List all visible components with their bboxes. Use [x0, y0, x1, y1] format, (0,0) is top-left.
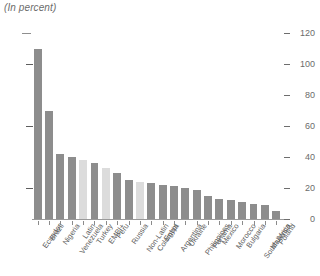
bar-poland[interactable] — [272, 211, 280, 219]
tick-dash-icon — [284, 64, 290, 65]
x-label-slot: Venezuela — [66, 221, 77, 276]
x-axis-baseline — [32, 219, 284, 220]
x-axis-labels: EcuadorBrazilNigeriaVenezuelaLatinTurkey… — [32, 221, 282, 276]
plot-area — [32, 33, 282, 219]
bar-slot — [32, 33, 43, 219]
x-axis-tick — [276, 221, 277, 225]
bar-south-africa[interactable] — [250, 204, 258, 220]
x-axis-tick — [265, 221, 266, 225]
bar-slot — [134, 33, 145, 219]
bar-brazil[interactable] — [45, 111, 53, 220]
bar-slot — [225, 33, 236, 219]
x-label-slot: Poland — [271, 221, 282, 276]
bar-colombia[interactable] — [147, 183, 155, 219]
bar-russia[interactable] — [125, 180, 133, 219]
right-axis-tick-100: 100 — [284, 59, 315, 69]
bar-ecuador[interactable] — [34, 49, 42, 220]
bar-slot — [43, 33, 54, 219]
x-label-slot: EMBI+ — [100, 221, 111, 276]
right-axis-tick-label: 0 — [293, 214, 315, 224]
x-label-slot: Latin — [77, 221, 88, 276]
right-axis-tick-label: 40 — [293, 152, 315, 162]
x-axis-tick — [49, 221, 50, 225]
x-label-slot: Ecuador — [32, 221, 43, 276]
x-axis-tick — [72, 221, 73, 225]
bar-slot — [89, 33, 100, 219]
bar-slot — [271, 33, 282, 219]
x-axis-tick — [254, 221, 255, 225]
x-axis-tick — [208, 221, 209, 225]
x-label-slot: Peru — [112, 221, 123, 276]
right-axis-tick-80: 80 — [284, 90, 315, 100]
x-axis-tick — [38, 221, 39, 225]
x-axis-tick — [242, 221, 243, 225]
x-label-slot: South Africa — [248, 221, 259, 276]
tick-dash-icon — [284, 188, 290, 189]
bar-slot — [66, 33, 77, 219]
bar-philippines[interactable] — [193, 190, 201, 219]
left-axis-stub-tick — [22, 33, 31, 34]
x-axis-tick — [129, 221, 130, 225]
x-axis-tick — [197, 221, 198, 225]
bar-slot — [100, 33, 111, 219]
x-label-slot: Argentina — [168, 221, 179, 276]
bar-egypt[interactable] — [159, 185, 167, 219]
right-axis-tick-label: 60 — [293, 121, 315, 131]
right-axis-tick-120: 120 — [284, 28, 315, 38]
bar-bulgaria[interactable] — [238, 202, 246, 219]
x-axis-tick — [231, 221, 232, 225]
bar-slot — [146, 33, 157, 219]
x-label-slot: Ukraine — [180, 221, 191, 276]
bar-malaysia[interactable] — [261, 205, 269, 219]
chart-subtitle: (In percent) — [4, 2, 56, 13]
bar-slot — [214, 33, 225, 219]
tick-dash-icon — [284, 219, 290, 220]
bar-peru[interactable] — [113, 173, 121, 220]
x-label-slot: Morocco — [225, 221, 236, 276]
tick-dash-icon — [284, 33, 290, 34]
x-label-slot: Egypt — [157, 221, 168, 276]
bar-mexico[interactable] — [215, 199, 223, 219]
x-label-slot: Brazil — [43, 221, 54, 276]
tick-dash-icon — [284, 157, 290, 158]
x-label-slot: Turkey — [89, 221, 100, 276]
bar-turkey[interactable] — [91, 163, 99, 219]
x-label-slot: Russia — [123, 221, 134, 276]
bar-slot — [191, 33, 202, 219]
bar-argentina[interactable] — [170, 186, 178, 219]
bar-morocco[interactable] — [227, 200, 235, 219]
bar-slot — [112, 33, 123, 219]
right-axis-tick-label: 100 — [293, 59, 315, 69]
bar-series — [32, 33, 282, 219]
bar-panama[interactable] — [204, 196, 212, 219]
bar-slot — [168, 33, 179, 219]
x-axis-tick — [185, 221, 186, 225]
x-label-slot: Mexico — [214, 221, 225, 276]
bar-embi-[interactable] — [102, 168, 110, 219]
bar-slot — [77, 33, 88, 219]
right-axis-tick-60: 60 — [284, 121, 315, 131]
x-label-slot: Panama — [202, 221, 213, 276]
bar-slot — [259, 33, 270, 219]
x-axis-tick — [151, 221, 152, 225]
x-axis-tick — [60, 221, 61, 225]
bar-latin[interactable] — [79, 160, 87, 219]
right-axis-tick-label: 120 — [293, 28, 315, 38]
x-label-slot: Philippines — [191, 221, 202, 276]
x-label-slot: Non-Latin — [134, 221, 145, 276]
bar-venezuela[interactable] — [68, 157, 76, 219]
bar-ukraine[interactable] — [181, 188, 189, 219]
bar-chart: (In percent) 020406080100120 EcuadorBraz… — [0, 0, 320, 276]
x-axis-tick — [106, 221, 107, 225]
bar-nigeria[interactable] — [56, 154, 64, 219]
bar-slot — [180, 33, 191, 219]
bar-slot — [248, 33, 259, 219]
x-axis-tick — [94, 221, 95, 225]
bar-non-latin[interactable] — [136, 182, 144, 219]
x-label-slot: Malaysia — [259, 221, 270, 276]
bar-slot — [157, 33, 168, 219]
x-label-slot: Bulgaria — [236, 221, 247, 276]
right-axis-tick-label: 20 — [293, 183, 315, 193]
tick-dash-icon — [284, 126, 290, 127]
x-axis-tick — [140, 221, 141, 225]
